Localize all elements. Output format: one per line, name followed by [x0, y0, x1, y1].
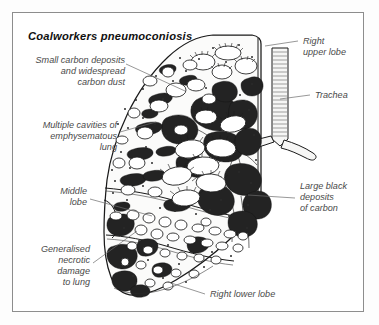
- label-large-black-deposits: Large black deposits of carbon: [300, 181, 347, 213]
- label-small-carbon-line-3: carbon dust: [77, 77, 125, 87]
- label-small-carbon-deposits: Small carbon deposits and widespread car…: [36, 55, 126, 87]
- label-right-lower-lobe: Right lower lobe: [210, 289, 275, 299]
- label-multiple-cavities-line-1: Multiple cavities of: [43, 120, 119, 130]
- left-main-bronchus: [281, 140, 316, 160]
- label-trachea-line-1: Trachea: [315, 90, 348, 100]
- label-multiple-cavities-line-3: lung: [100, 142, 117, 152]
- label-generalised-necrotic-line-1: Generalised: [41, 244, 91, 254]
- leader-right-lower-lobe: [168, 282, 205, 294]
- illustration-canvas: Coalworkers pneumoconiosis: [0, 0, 379, 325]
- label-small-carbon-line-1: Small carbon deposits: [36, 55, 126, 65]
- label-multiple-cavities-line-2: emphysematous: [50, 131, 117, 141]
- leader-right-upper-lobe: [265, 41, 298, 46]
- label-generalised-necrotic: Generalised necrotic damage to lung: [41, 244, 91, 287]
- label-trachea: Trachea: [315, 90, 348, 100]
- label-middle-lobe: Middle lobe: [60, 186, 87, 207]
- label-middle-lobe-line-1: Middle: [60, 186, 87, 196]
- figure-title: Coalworkers pneumoconiosis: [28, 30, 192, 42]
- label-right-lower-lobe-line-1: Right lower lobe: [210, 289, 275, 299]
- label-right-upper-lobe-line-2: upper lobe: [303, 47, 346, 57]
- label-right-upper-lobe: Right upper lobe: [303, 36, 346, 57]
- label-middle-lobe-line-2: lobe: [70, 197, 87, 207]
- trachea-tube: [272, 48, 288, 146]
- label-generalised-necrotic-line-4: to lung: [63, 277, 90, 287]
- label-right-upper-lobe-line-1: Right: [303, 36, 325, 46]
- label-large-black-deposits-line-2: deposits: [300, 192, 334, 202]
- label-generalised-necrotic-line-3: damage: [57, 266, 90, 276]
- label-large-black-deposits-line-3: of carbon: [300, 203, 338, 213]
- label-multiple-cavities: Multiple cavities of emphysematous lung: [43, 120, 119, 152]
- label-generalised-necrotic-line-2: necrotic: [58, 255, 90, 265]
- label-small-carbon-line-2: and widespread: [61, 66, 126, 76]
- figure-coalworkers-pneumoconiosis: Coalworkers pneumoconiosis: [0, 0, 379, 325]
- lung-illustration: [104, 35, 316, 297]
- label-large-black-deposits-line-1: Large black: [300, 181, 347, 191]
